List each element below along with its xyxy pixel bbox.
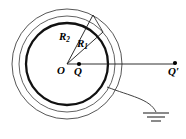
wedge-chord [93,15,103,32]
label-outer-radius: R2 [59,31,70,44]
label-center-O: O [57,65,65,76]
ground-wire [107,87,156,112]
label-inner-radius: R1 [77,38,88,51]
label-charge-Q-prime: Q′ [168,66,179,77]
figure-canvas: R2 R1 O Q Q′ [0,0,186,139]
diagram-svg [0,0,186,139]
label-charge-Q: Q [74,66,82,77]
